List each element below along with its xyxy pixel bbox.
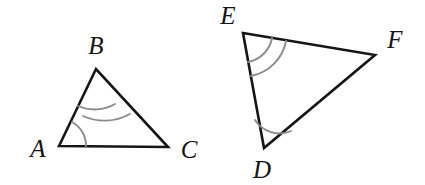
vertex-label-b: B [88, 32, 103, 59]
triangle-abc: A B C [28, 32, 197, 163]
vertex-label-a: A [28, 135, 46, 162]
geometry-figure-canvas: A B C D E F [0, 0, 425, 185]
angle-arc-b-1 [78, 104, 115, 109]
triangle-def-outline [243, 33, 375, 148]
triangle-abc-outline [59, 69, 168, 147]
geometry-diagram: A B C D E F [0, 0, 425, 185]
angle-arc-e-1 [248, 38, 272, 62]
angle-arc-b-2 [83, 114, 130, 121]
triangle-def: D E F [219, 2, 403, 183]
vertex-label-e: E [219, 2, 235, 29]
vertex-label-c: C [181, 136, 198, 163]
vertex-label-f: F [386, 26, 403, 53]
angle-arc-a-1 [72, 122, 86, 146]
vertex-label-d: D [252, 156, 271, 183]
